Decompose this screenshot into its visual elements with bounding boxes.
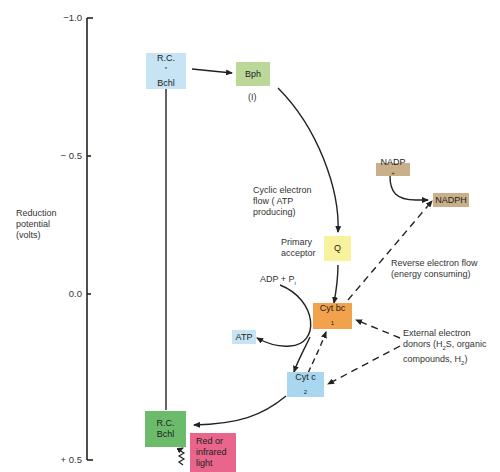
node-nadp: NADP+ bbox=[376, 163, 410, 176]
node-q: Q bbox=[324, 236, 351, 261]
tick-minus-1: −1.0 bbox=[46, 12, 82, 23]
node-atp: ATP bbox=[232, 330, 256, 344]
bph-sublabel: (I) bbox=[248, 92, 257, 103]
arrow-adp-to-atp bbox=[257, 285, 311, 346]
node-nadph: NADPH bbox=[433, 193, 469, 207]
node-cyt-c2: Cyt c2 bbox=[287, 372, 324, 397]
primary-acceptor-label: Primary acceptor bbox=[281, 237, 316, 259]
external-donors-label: External electron donors (H2S, organic c… bbox=[403, 328, 486, 369]
arrow-q-to-cytbc1 bbox=[334, 265, 338, 303]
tick-0: 0.0 bbox=[46, 288, 82, 299]
light-wave-arrow bbox=[179, 448, 184, 465]
arrow-rc-to-bph bbox=[192, 69, 232, 73]
arrow-reverse-flow-dashed bbox=[348, 201, 432, 300]
arrow-external-to-cytbc1-dashed bbox=[356, 320, 400, 338]
node-bph: Bph bbox=[236, 62, 270, 86]
adp-label: ADP + Pi bbox=[260, 274, 296, 289]
node-rc-ground: R.C. Bchl bbox=[145, 411, 186, 447]
arrow-cytc2-to-cytbc1-dashed bbox=[308, 332, 326, 373]
tick-minus-0-5: − 0.5 bbox=[46, 150, 82, 161]
cyclic-flow-label: Cyclic electron flow ( ATP producing) bbox=[253, 185, 312, 218]
tick-plus-0-5: + 0.5 bbox=[46, 454, 82, 465]
node-cyt-bc1: Cyt bc1 bbox=[313, 303, 352, 329]
node-rc-excited: R.C.* Bchl bbox=[146, 53, 186, 89]
axis-label: Reduction potential (volts) bbox=[16, 208, 57, 241]
arrow-cytc2-to-rc bbox=[194, 396, 286, 425]
arrow-external-to-cytc2-dashed bbox=[328, 346, 400, 384]
y-axis bbox=[87, 18, 93, 460]
node-light: Red or infrared light bbox=[190, 433, 236, 472]
reverse-flow-label: Reverse electron flow (energy consuming) bbox=[391, 258, 478, 280]
